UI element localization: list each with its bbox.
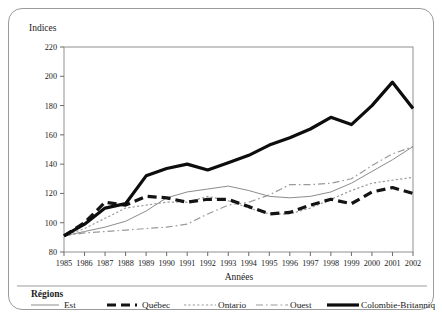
x-tick-label: 2001 (384, 259, 400, 268)
y-tick-label: 120 (45, 189, 57, 198)
y-tick-label: 80 (49, 248, 57, 257)
x-tick-label: 1989 (138, 259, 154, 268)
line-chart: Indices 80100120140160180200220 19851986… (9, 9, 435, 311)
x-tick-label: 1988 (117, 259, 133, 268)
x-tick-label: 1996 (282, 259, 298, 268)
x-tick-label: 2002 (405, 259, 421, 268)
y-axis-ticks: 80100120140160180200220 (45, 43, 64, 257)
x-tick-label: 1994 (241, 259, 257, 268)
x-tick-label: 1985 (56, 259, 72, 268)
x-tick-label: 1991 (179, 259, 195, 268)
legend-items: EstQuébecOntarioOuestColombie-Britanniqu… (31, 300, 435, 310)
series-layer (64, 82, 413, 236)
series-line-qu-bec (64, 188, 413, 236)
y-tick-label: 180 (45, 102, 57, 111)
x-tick-label: 1999 (343, 259, 359, 268)
x-tick-label: 1995 (261, 259, 277, 268)
legend-label-ouest: Ouest (290, 300, 312, 310)
x-tick-label: 1986 (76, 259, 92, 268)
y-tick-label: 200 (45, 72, 57, 81)
y-axis-title: Indices (29, 23, 57, 33)
legend-label-colombie-britannique: Colombie-Britannique (361, 300, 435, 310)
legend-title: Régions (31, 289, 64, 299)
y-tick-label: 100 (45, 219, 57, 228)
legend-label-qu-bec: Québec (142, 300, 170, 310)
x-tick-label: 1990 (158, 259, 174, 268)
x-tick-label: 1993 (220, 259, 236, 268)
x-tick-label: 1992 (200, 259, 216, 268)
plot-frame (64, 47, 413, 252)
y-tick-label: 140 (45, 160, 57, 169)
x-axis-title: Années (225, 272, 254, 282)
x-tick-label: 1997 (302, 259, 318, 268)
x-axis-ticks: 1985198619871988198919901991199219931994… (56, 252, 421, 268)
figure-frame: Indices 80100120140160180200220 19851986… (8, 8, 434, 310)
y-tick-label: 220 (45, 43, 57, 52)
y-tick-label: 160 (45, 131, 57, 140)
x-tick-label: 1998 (323, 259, 339, 268)
x-tick-label: 1987 (97, 259, 113, 268)
chart-canvas: Indices 80100120140160180200220 19851986… (9, 9, 435, 311)
x-tick-label: 2000 (364, 259, 380, 268)
legend-label-ontario: Ontario (218, 300, 246, 310)
legend-label-est: Est (64, 300, 76, 310)
